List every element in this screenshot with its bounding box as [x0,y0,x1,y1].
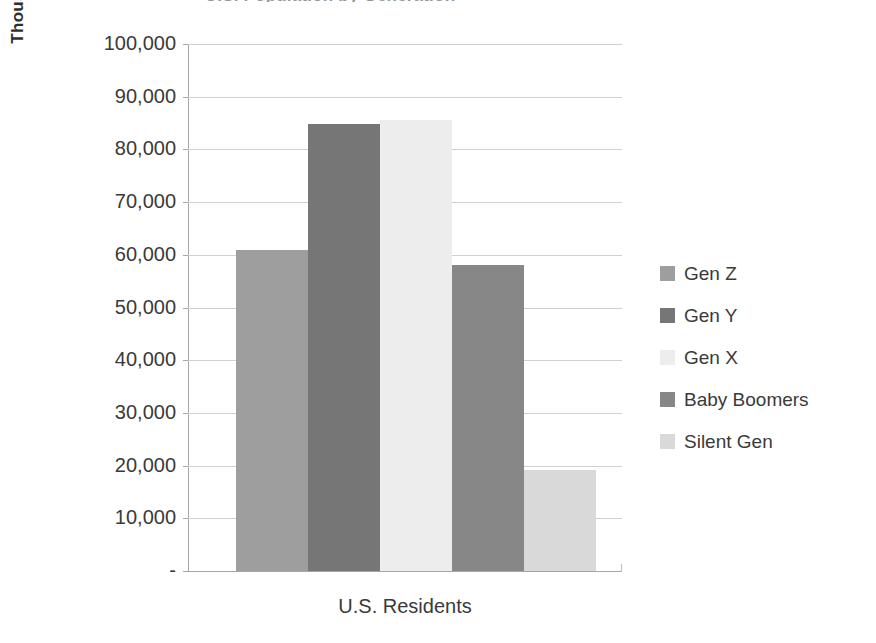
y-tick-mark [183,413,188,414]
y-tick-label: 10,000 [56,507,176,527]
y-tick-label: 20,000 [56,455,176,475]
legend-item[interactable]: Baby Boomers [660,378,870,420]
y-tick-mark [183,149,188,150]
legend-item[interactable]: Gen Y [660,294,870,336]
y-tick-mark [183,571,188,572]
legend-label: Baby Boomers [684,390,809,409]
legend-swatch-icon [660,308,675,323]
y-tick-mark [183,202,188,203]
legend-swatch-icon [660,266,675,281]
bar[interactable] [380,120,452,571]
y-tick-mark [183,97,188,98]
y-tick-label: 60,000 [56,244,176,264]
bar-chart: U.S. Population by Generation Thousands … [0,0,876,643]
plot-area [188,44,622,571]
y-axis-tick-labels: 100,00090,00080,00070,00060,00050,00040,… [48,44,176,571]
bar[interactable] [236,250,308,571]
y-tick-mark [183,518,188,519]
bar[interactable] [524,470,596,571]
y-tick-label: 90,000 [56,86,176,106]
x-axis-line [188,571,622,572]
gridline [188,44,622,45]
legend-label: Gen X [684,348,738,367]
y-tick-label: 80,000 [56,138,176,158]
y-tick-mark [183,308,188,309]
bar[interactable] [452,265,524,571]
y-axis-title: Thousands [8,0,30,82]
legend-label: Silent Gen [684,432,773,451]
y-tick-label: 40,000 [56,349,176,369]
chart-legend: Gen ZGen YGen XBaby BoomersSilent Gen [660,252,870,462]
y-tick-label: 70,000 [56,191,176,211]
y-tick-label: 30,000 [56,402,176,422]
y-tick-label: 100,000 [56,33,176,53]
legend-label: Gen Z [684,264,737,283]
y-tick-mark [183,255,188,256]
y-tick-mark [183,44,188,45]
legend-item[interactable]: Gen Z [660,252,870,294]
legend-label: Gen Y [684,306,738,325]
legend-item[interactable]: Gen X [660,336,870,378]
legend-swatch-icon [660,350,675,365]
bar[interactable] [308,124,380,571]
y-tick-mark [183,360,188,361]
y-tick-mark [183,466,188,467]
x-axis-title: U.S. Residents [188,595,622,618]
y-tick-label: - [56,560,176,580]
plot-right-edge [621,564,622,572]
gridline [188,97,622,98]
legend-swatch-icon [660,392,675,407]
legend-item[interactable]: Silent Gen [660,420,870,462]
legend-swatch-icon [660,434,675,449]
y-tick-label: 50,000 [56,297,176,317]
chart-title: U.S. Population by Generation [0,0,660,2]
